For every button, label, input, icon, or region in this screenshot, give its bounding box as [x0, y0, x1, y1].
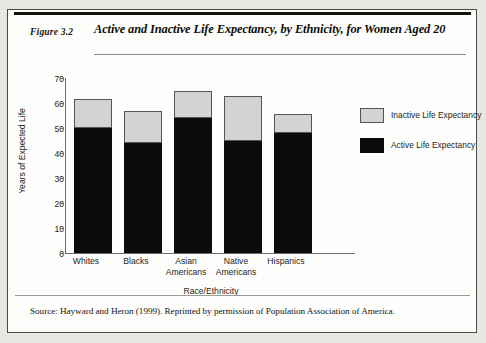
x-tick-line2: Americans [216, 267, 257, 277]
x-tick-line1: Asian [175, 256, 197, 266]
bar-native-americans[interactable] [224, 96, 262, 254]
y-tick-mark [60, 103, 64, 104]
y-tick-label: 70 [26, 74, 64, 84]
figure-title: Active and Inactive Life Expectancy, by … [94, 22, 466, 36]
x-axis-tick-labels: Whites Blacks Asian Americans Native Ame… [66, 256, 356, 286]
y-tick-mark [60, 78, 64, 79]
legend-swatch-inactive [360, 108, 384, 123]
bar-segment-inactive [274, 114, 312, 133]
x-tick-label: Hispanics [249, 256, 323, 267]
bar-segment-inactive [174, 91, 212, 119]
bar-segment-active [174, 118, 212, 253]
bar-hispanics[interactable] [274, 114, 312, 253]
legend-label-active: Active Life Expectancy [391, 140, 475, 150]
y-tick-label: 50 [26, 124, 64, 134]
figure-frame: Figure 3.2 Active and Inactive Life Expe… [7, 9, 477, 333]
x-tick-line1: Whites [73, 256, 99, 266]
y-axis-tick-labels: 70 60 50 40 30 20 10 0 [8, 58, 64, 283]
legend-label-inactive: Inactive Life Expectancy [391, 110, 481, 120]
bar-segment-active [74, 128, 112, 253]
chart-plot-area: Years of Expected Life 70 60 50 40 30 20… [8, 58, 478, 283]
bar-segment-active [274, 133, 312, 253]
source-note: Source: Hayward and Heron (1999). Reprin… [30, 306, 460, 316]
bar-segment-inactive [74, 99, 112, 128]
x-tick-line1: Native [224, 256, 248, 266]
y-tick-mark [60, 153, 64, 154]
bar-segment-active [124, 143, 162, 253]
bar-whites[interactable] [74, 99, 112, 253]
y-tick-mark [60, 128, 64, 129]
bar-segment-active [224, 141, 262, 254]
source-divider [15, 295, 470, 296]
bar-asian-americans[interactable] [174, 91, 212, 254]
x-tick-line1: Blacks [123, 256, 148, 266]
y-tick-mark [60, 253, 64, 254]
x-axis-line [65, 253, 355, 254]
legend-swatch-active [360, 138, 384, 153]
bar-segment-inactive [224, 96, 262, 141]
x-tick-line1: Hispanics [267, 256, 304, 266]
bar-group [66, 78, 356, 253]
y-tick-label: 40 [26, 149, 64, 159]
bar-segment-inactive [124, 111, 162, 144]
y-tick-label: 60 [26, 99, 64, 109]
figure-header: Figure 3.2 Active and Inactive Life Expe… [8, 20, 478, 54]
figure-top-rule [14, 12, 471, 15]
y-tick-mark [60, 228, 64, 229]
y-tick-mark [60, 203, 64, 204]
header-divider [94, 54, 466, 55]
y-tick-label: 20 [26, 199, 64, 209]
figure-number: Figure 3.2 [30, 27, 73, 37]
y-tick-mark [60, 178, 64, 179]
y-tick-label: 10 [26, 224, 64, 234]
y-tick-label: 30 [26, 174, 64, 184]
bar-blacks[interactable] [124, 111, 162, 254]
